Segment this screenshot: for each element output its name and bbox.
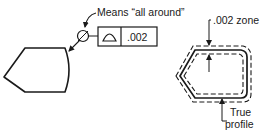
profile-of-a-surface-icon: [103, 34, 116, 41]
true-profile-line: [180, 50, 247, 98]
inner-boundary-dashed: [184, 54, 243, 94]
all-around-circle-icon: [78, 31, 99, 42]
all-around-callout-label: Means “all around”: [97, 6, 185, 18]
profile-tolerance-diagram: Means “all around” .002 .002 zone True p…: [0, 0, 262, 134]
feature-control-frame: .002: [98, 27, 157, 46]
callout-leader: [85, 13, 96, 27]
leader-line: [69, 40, 80, 51]
zone-label: .002 zone: [213, 14, 259, 26]
tolerance-zone-figure: [176, 46, 251, 102]
zone-leader: [209, 20, 211, 45]
part-outline: [4, 48, 69, 92]
true-profile-label-line2: profile: [225, 118, 254, 130]
true-profile-label-line1: True: [230, 106, 251, 118]
tolerance-value: .002: [127, 31, 148, 43]
